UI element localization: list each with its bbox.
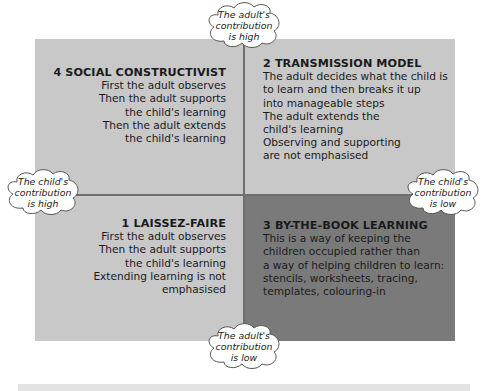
quadrant-line: a way of helping children to learn: xyxy=(263,259,444,272)
quadrant-line: Observing and supporting xyxy=(263,136,448,149)
cloud-text-line: is low xyxy=(231,352,257,363)
cloud-child-contribution-high: The child's contribution is high xyxy=(3,168,83,216)
cloud-text-line: The adult's xyxy=(218,9,270,20)
quadrant-line: into manageable steps xyxy=(263,97,448,110)
cloud-text-line: The adult's xyxy=(218,330,270,341)
quadrant-line: templates, colouring-in xyxy=(263,285,444,298)
quadrant-diagram: 4 SOCIAL CONSTRUCTIVIST First the adult … xyxy=(35,39,455,341)
quadrant-title: 4 SOCIAL CONSTRUCTIVIST xyxy=(53,66,226,79)
quadrant-line: This is a way of keeping the xyxy=(263,232,444,245)
quadrant-title: 3 BY-THE-BOOK LEARNING xyxy=(263,219,444,232)
quadrant-line: children occupied rather than xyxy=(263,245,444,258)
quadrant-line: First the adult observes xyxy=(93,230,226,243)
quadrant-line: The adult extends the xyxy=(263,110,448,123)
social-constructivist-text: 4 SOCIAL CONSTRUCTIVIST First the adult … xyxy=(53,66,226,145)
cloud-text-line: is high xyxy=(229,31,260,42)
quadrant-line: to learn and then breaks it up xyxy=(263,83,448,96)
quadrant-line: are not emphasised xyxy=(263,149,448,162)
quadrant-line: Then the adult supports xyxy=(93,243,226,256)
quadrant-title: 1 LAISSEZ-FAIRE xyxy=(93,217,226,230)
quadrant-line: the child's learning xyxy=(53,132,226,145)
by-the-book-learning-text: 3 BY-THE-BOOK LEARNING This is a way of … xyxy=(263,219,444,298)
cloud-text-line: contribution xyxy=(216,341,273,352)
cloud-adult-contribution-low: The adult's contribution is low xyxy=(204,322,284,370)
quadrant-line: stencils, worksheets, tracing, xyxy=(263,272,444,285)
transmission-model-text: 2 TRANSMISSION MODEL The adult decides w… xyxy=(263,57,448,163)
quadrant-line: the child's learning xyxy=(53,106,226,119)
quadrant-line: the child's learning xyxy=(93,257,226,270)
laissez-faire-text: 1 LAISSEZ-FAIRE First the adult observes… xyxy=(93,217,226,296)
cloud-child-contribution-low: The child's contribution is low xyxy=(403,168,483,216)
cloud-text-line: contribution xyxy=(415,187,472,198)
cloud-text-line: The child's xyxy=(18,176,68,187)
quadrant-line: Then the adult supports xyxy=(53,92,226,105)
cloud-text-line: contribution xyxy=(15,187,72,198)
quadrant-line: The adult decides what the child is xyxy=(263,70,448,83)
cloud-adult-contribution-high: The adult's contribution is high xyxy=(204,1,284,49)
quadrant-line: Extending learning is not xyxy=(93,270,226,283)
cloud-text-line: is low xyxy=(430,198,456,209)
vertical-axis-line xyxy=(243,39,245,341)
cloud-text-line: is high xyxy=(28,198,59,209)
quadrant-line: emphasised xyxy=(93,283,226,296)
horizontal-axis-line xyxy=(35,194,455,196)
quadrant-title: 2 TRANSMISSION MODEL xyxy=(263,57,448,70)
footer-bar xyxy=(18,384,470,391)
cloud-text-line: The child's xyxy=(418,176,468,187)
quadrant-line: Then the adult extends xyxy=(53,119,226,132)
quadrant-line: First the adult observes xyxy=(53,79,226,92)
cloud-text-line: contribution xyxy=(216,20,273,31)
quadrant-line: child's learning xyxy=(263,123,448,136)
